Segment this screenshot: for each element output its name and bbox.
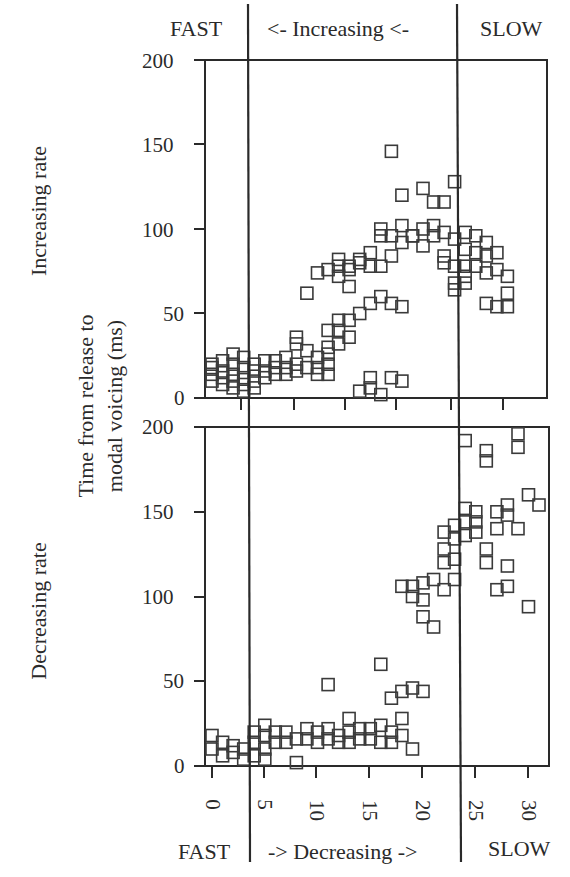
lower-xtick-label-5: 5 xyxy=(252,793,277,817)
data-point-square xyxy=(322,679,334,691)
upper-ytick-label-50: 50 xyxy=(163,302,184,327)
data-point-square xyxy=(301,287,313,299)
lower-xtick-label-30: 30 xyxy=(516,793,541,829)
data-point-square xyxy=(375,658,387,670)
data-point-square xyxy=(385,145,397,157)
upper-panel-label: Increasing rate xyxy=(26,116,52,306)
y-axis-title-line2: modal voicing (ms) xyxy=(102,276,128,536)
top-fast-label: FAST xyxy=(170,16,222,42)
data-point-square xyxy=(417,182,429,194)
upper-ytick-label-100: 100 xyxy=(142,218,174,243)
upper-ytick-label-150: 150 xyxy=(142,133,174,158)
lower-xtick-label-10: 10 xyxy=(304,793,329,829)
upper-ytick-label-200: 200 xyxy=(142,49,174,74)
data-point-square xyxy=(407,743,419,755)
data-point-square xyxy=(396,713,408,725)
lower-ytick-label-100: 100 xyxy=(142,585,174,610)
lower-ytick-label-50: 50 xyxy=(163,669,184,694)
bottom-decreasing-label: -> Decreasing -> xyxy=(268,839,417,865)
data-point-square xyxy=(512,441,524,453)
data-point-square xyxy=(512,523,524,535)
top-slow-label: SLOW xyxy=(480,16,542,42)
data-point-square xyxy=(501,560,513,572)
lower-xtick-label-15: 15 xyxy=(357,793,382,829)
data-point-square xyxy=(523,601,535,613)
data-point-square xyxy=(512,428,524,440)
bottom-slow-label: SLOW xyxy=(488,836,550,862)
bottom-fast-label: FAST xyxy=(178,839,230,865)
data-point-square xyxy=(480,543,492,555)
data-point-square xyxy=(501,287,513,299)
lower-xtick-label-20: 20 xyxy=(410,793,435,829)
lower-data-points xyxy=(206,428,545,769)
upper-data-points xyxy=(206,145,513,400)
data-point-square xyxy=(480,557,492,569)
upper-scatter-panel xyxy=(194,60,547,410)
lower-ytick-label-200: 200 xyxy=(142,415,174,440)
upper-plot-frame xyxy=(205,60,547,398)
y-axis-title-line1: Time from release to xyxy=(73,276,99,536)
lower-ytick-label-0: 0 xyxy=(174,754,185,779)
lower-xtick-label-25: 25 xyxy=(463,793,488,829)
upper-ytick-label-0: 0 xyxy=(174,386,185,411)
lower-panel-label: Decreasing rate xyxy=(26,516,52,706)
slow-region-divider xyxy=(457,4,461,862)
top-increasing-label: <- Increasing <- xyxy=(267,16,409,42)
data-point-square xyxy=(491,523,503,535)
lower-scatter-panel xyxy=(194,427,549,778)
data-point-square xyxy=(396,189,408,201)
data-point-square xyxy=(459,435,471,447)
lower-xtick-label-0: 0 xyxy=(200,793,225,817)
lower-ytick-label-150: 150 xyxy=(142,500,174,525)
